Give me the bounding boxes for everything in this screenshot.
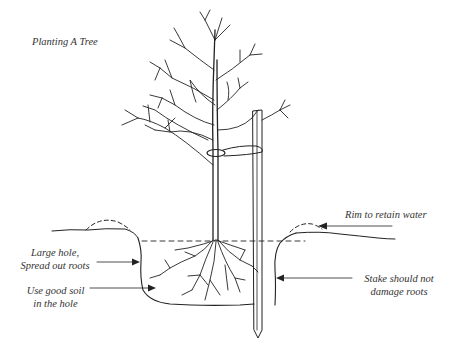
tree-branches <box>122 10 290 165</box>
label-stake-line1: Stake should not <box>353 272 445 285</box>
tree-roots <box>150 240 258 300</box>
arrow-head-soil <box>148 285 156 292</box>
stake <box>253 110 262 338</box>
arrow-head-rim <box>318 223 327 230</box>
label-rim: Rim to retain water <box>345 208 427 221</box>
tree-trunk <box>213 30 218 240</box>
label-large-hole-line1: Large hole, <box>18 246 92 259</box>
diagram-title: Planting A Tree <box>32 35 98 48</box>
label-stake: Stake should not damage roots <box>353 272 445 298</box>
label-rim-line1: Rim to retain water <box>345 208 427 221</box>
planting-hole <box>138 233 296 305</box>
planting-tree-diagram: Planting A Tree Large hole, Spread out r… <box>0 0 455 359</box>
arrow-head-hole <box>132 259 140 266</box>
ground-line-left <box>52 220 138 238</box>
label-good-soil-line1: Use good soil <box>24 284 87 297</box>
arrow-head-stake <box>276 275 284 282</box>
label-stake-line2: damage roots <box>353 285 445 298</box>
label-good-soil-line2: in the hole <box>24 297 87 310</box>
trunk-tie <box>207 146 262 157</box>
label-large-hole-line2: Spread out roots <box>18 259 92 272</box>
label-good-soil: Use good soil in the hole <box>24 284 87 310</box>
label-large-hole: Large hole, Spread out roots <box>18 246 92 272</box>
